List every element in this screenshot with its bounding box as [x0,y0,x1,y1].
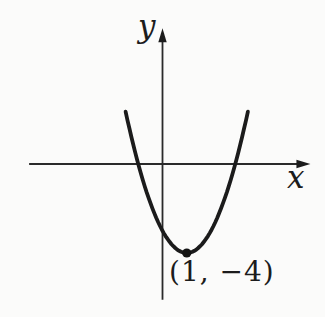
y-axis-arrowhead [158,28,166,42]
y-axis-label: y [138,11,156,42]
parabola-figure: y x (1, −4) [0,0,325,317]
x-axis-label: x [287,162,304,193]
vertex-point-label: (1, −4) [169,258,275,286]
graph-canvas [0,0,325,317]
parabola-curve [126,112,248,253]
